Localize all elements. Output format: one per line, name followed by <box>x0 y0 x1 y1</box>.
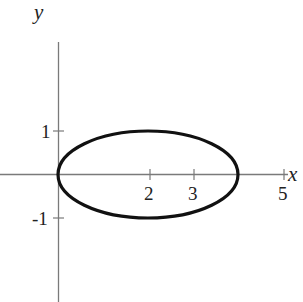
x-tick-label-3: 3 <box>188 183 198 204</box>
x-tick-label-5: 5 <box>278 183 288 204</box>
y-tick-label-1: 1 <box>41 121 51 142</box>
chart: y x 2 3 5 1 -1 <box>0 0 303 302</box>
y-tick-label-neg1: -1 <box>32 208 48 229</box>
y-axis-label: y <box>32 0 44 24</box>
x-axis-label: x <box>287 162 298 186</box>
x-tick-label-2: 2 <box>144 183 154 204</box>
